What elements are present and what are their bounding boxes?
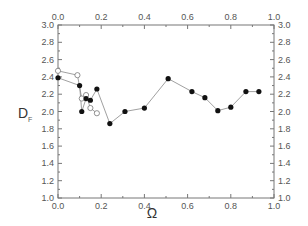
- y-tick-label: 1.2: [41, 176, 54, 186]
- plot-frame: [58, 25, 274, 198]
- y-tick-label-right: 1.0: [278, 193, 291, 203]
- y-tick-label: 3.0: [41, 20, 54, 30]
- data-point-filled: [94, 86, 99, 91]
- data-point-open: [75, 73, 80, 78]
- y-tick-label: 2.2: [41, 89, 54, 99]
- x-tick-label-top: 0.4: [138, 12, 151, 22]
- axes: 0.00.00.20.20.40.40.60.60.80.81.01.01.01…: [41, 12, 290, 211]
- x-tick-label-top: 0.6: [181, 12, 194, 22]
- data-point-open: [94, 111, 99, 116]
- y-tick-label-right: 2.4: [278, 72, 291, 82]
- data-point-filled: [215, 108, 220, 113]
- data-point-filled: [142, 105, 147, 110]
- y-tick-label: 1.0: [41, 193, 54, 203]
- data-point-filled: [122, 109, 127, 114]
- y-tick-label: 2.0: [41, 107, 54, 117]
- data-point-filled: [202, 95, 207, 100]
- y-tick-label-right: 1.8: [278, 124, 291, 134]
- data-point-filled: [88, 98, 93, 103]
- data-point-open: [55, 68, 60, 73]
- data-point-filled: [256, 89, 261, 94]
- data-point-filled: [166, 76, 171, 81]
- x-tick-label: 0.8: [225, 201, 238, 211]
- x-axis-label: Ω: [147, 205, 157, 221]
- y-tick-label: 2.6: [41, 55, 54, 65]
- x-tick-label: 0.6: [181, 201, 194, 211]
- y-tick-label: 2.8: [41, 37, 54, 47]
- x-tick-label: 0.2: [95, 201, 108, 211]
- y-tick-label-right: 1.6: [278, 141, 291, 151]
- y-tick-label-right: 1.2: [278, 176, 291, 186]
- y-tick-label: 1.6: [41, 141, 54, 151]
- y-axis-label: D: [18, 105, 28, 121]
- x-tick-label-top: 0.2: [95, 12, 108, 22]
- y-tick-label-right: 3.0: [278, 20, 291, 30]
- y-tick-label: 1.8: [41, 124, 54, 134]
- y-tick-label-right: 2.0: [278, 107, 291, 117]
- y-tick-label: 1.4: [41, 158, 54, 168]
- x-tick-label-top: 0.8: [225, 12, 238, 22]
- data-point-open: [88, 105, 93, 110]
- data-point-filled: [107, 121, 112, 126]
- data-point-filled: [79, 109, 84, 114]
- y-tick-label: 2.4: [41, 72, 54, 82]
- data-point-filled: [55, 75, 60, 80]
- data-point-filled: [189, 89, 194, 94]
- y-tick-label-right: 2.2: [278, 89, 291, 99]
- y-tick-label-right: 2.8: [278, 37, 291, 47]
- y-axis-label-subscript: F: [28, 116, 32, 123]
- y-tick-label-right: 1.4: [278, 158, 291, 168]
- data-point-filled: [77, 83, 82, 88]
- data-point-filled: [228, 105, 233, 110]
- series-points: [55, 68, 261, 126]
- chart: 0.00.00.20.20.40.40.60.60.80.81.01.01.01…: [0, 0, 308, 226]
- data-point-filled: [243, 89, 248, 94]
- y-tick-label-right: 2.6: [278, 55, 291, 65]
